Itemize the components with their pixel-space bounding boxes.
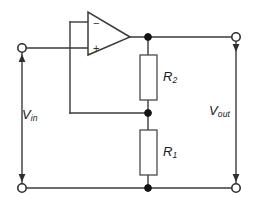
terminal-input-positive[interactable] [18,44,26,52]
terminal-output-negative[interactable] [232,184,240,192]
opamp-inverting-input-sign: − [93,17,99,29]
arrow-vin-down [19,174,26,182]
label-r1: R1 [163,145,177,160]
label-vout-subscript: out [218,109,231,119]
resistor-r2-body [140,55,157,100]
terminal-output-positive[interactable] [232,33,240,41]
terminal-input-negative[interactable] [18,184,26,192]
node-opamp-output [145,34,152,41]
arrow-vin-up [19,54,26,62]
label-r1-subscript: 1 [172,150,177,160]
node-ground-rail [145,185,152,192]
resistor-r1-body [140,130,157,175]
arrow-vout-top [233,44,240,52]
node-feedback-divider [145,110,152,117]
label-vout: Vout [209,104,230,119]
label-vout-symbol: V [209,103,218,118]
label-r2-symbol: R [163,69,172,84]
schematic-canvas: − + [0,0,265,203]
label-r2: R2 [163,70,177,85]
label-vin-subscript: in [31,113,38,123]
label-vin-symbol: V [22,107,31,122]
opamp-noninverting-input-sign: + [93,42,99,54]
label-r1-symbol: R [163,144,172,159]
label-vin: Vin [22,108,38,123]
label-r2-subscript: 2 [172,75,177,85]
circuit-diagram: − + Vin Vout R2 R1 [0,0,265,203]
arrow-vout-down [233,174,240,182]
